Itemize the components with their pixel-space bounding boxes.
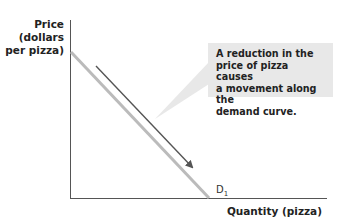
annotation-callout: A reduction in the price of pizza causes… [208,43,333,97]
y-axis-label-line: (dollars [0,31,64,44]
demand-chart: Price (dollars per pizza) A reduction in… [0,0,338,218]
demand-curve-label: D1 [216,184,228,198]
x-axis-label: Quantity (pizza) [227,205,322,217]
y-axis-label-line: per pizza) [0,44,64,57]
demand-curve-d1 [71,52,209,198]
movement-arrow [96,66,192,167]
curve-label-letter: D [216,184,224,195]
callout-line: price of pizza causes [216,60,327,83]
callout-line: demand curve. [216,106,327,118]
y-axis-label: Price (dollars per pizza) [0,18,64,57]
callout-line: a movement along the [216,83,327,106]
curve-label-subscript: 1 [224,190,228,198]
callout-line: A reduction in the [216,48,327,60]
y-axis-label-line: Price [0,18,64,31]
callout-pointer [155,62,209,119]
